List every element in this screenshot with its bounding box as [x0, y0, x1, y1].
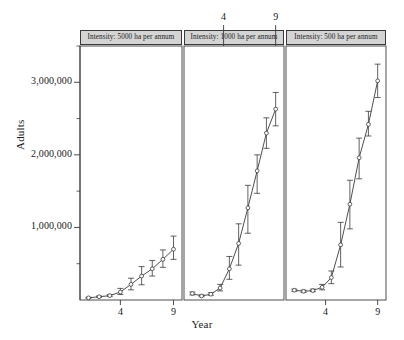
data-point-errorbar	[356, 138, 362, 179]
data-point-errorbar	[128, 278, 134, 290]
data-point-errorbar	[199, 294, 205, 298]
data-point-errorbar	[301, 289, 307, 293]
data-point-errorbar	[171, 236, 177, 259]
data-point-errorbar	[160, 250, 166, 267]
data-point-errorbar	[310, 289, 316, 293]
data-point-errorbar	[117, 288, 123, 294]
data-point-errorbar	[107, 294, 113, 298]
data-point-errorbar	[208, 292, 214, 296]
data-point-errorbar	[226, 256, 232, 279]
data-point-errorbar	[291, 288, 297, 292]
data-point-errorbar	[236, 224, 242, 265]
plot-area	[0, 0, 404, 340]
data-point-errorbar	[149, 260, 155, 276]
data-point-errorbar	[263, 118, 269, 148]
data-point-errorbar	[96, 295, 102, 299]
data-point-errorbar	[347, 180, 353, 229]
data-point-errorbar	[86, 296, 92, 300]
data-point-errorbar	[139, 267, 145, 285]
trellis-chart-figure: Adults Year 1,000,0002,000,0003,000,000 …	[0, 0, 404, 340]
data-point-errorbar	[189, 292, 195, 296]
data-point-errorbar	[273, 92, 279, 125]
data-point-errorbar	[328, 271, 334, 284]
data-point-errorbar	[245, 185, 251, 233]
data-point-errorbar	[338, 222, 344, 267]
